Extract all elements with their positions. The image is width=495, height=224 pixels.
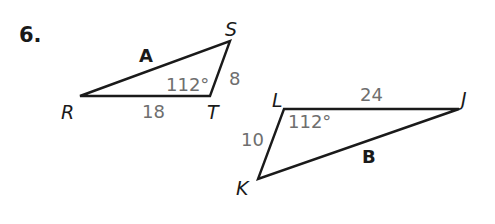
angle-l-measure: 112° [288, 111, 331, 132]
vertex-l-label: L [272, 89, 283, 111]
side-lj-length: 24 [360, 84, 383, 105]
vertex-j-label: J [457, 88, 467, 110]
side-st-length: 8 [229, 68, 240, 89]
angle-t-measure: 112° [166, 74, 209, 95]
vertex-k-label: K [236, 177, 250, 199]
vertex-t-label: T [207, 101, 220, 123]
triangle-b: L J K 24 10 112° B [236, 84, 467, 199]
side-rt-length: 18 [142, 101, 165, 122]
triangle-a: A S R T 112° 8 18 [61, 18, 240, 123]
geometry-figure: 6. A S R T 112° 8 18 L J K 24 10 112° B [0, 0, 495, 224]
vertex-r-label: R [61, 101, 74, 123]
side-lk-length: 10 [241, 129, 264, 150]
problem-number: 6. [19, 23, 42, 47]
triangle-a-label: A [139, 45, 153, 66]
vertex-s-label: S [225, 18, 237, 40]
triangle-b-label: B [362, 146, 376, 167]
